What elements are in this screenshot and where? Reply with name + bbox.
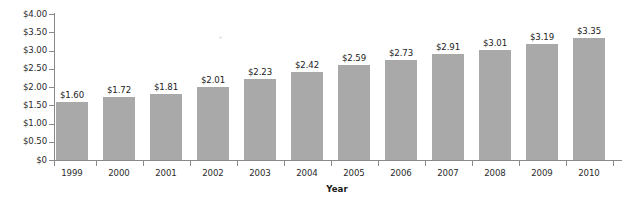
x-axis-category-label: 2001 [140, 168, 192, 178]
x-axis-category-label: 2010 [563, 168, 615, 178]
x-axis-tick [284, 161, 285, 166]
bar [291, 72, 323, 160]
bar-value-label: $3.01 [469, 38, 521, 48]
bar-value-label: $2.01 [187, 75, 239, 85]
x-axis-tick [519, 161, 520, 166]
x-axis-tick [143, 161, 144, 166]
bar [338, 65, 370, 160]
bar-value-label: $2.59 [328, 53, 380, 63]
x-axis-tick [190, 161, 191, 166]
x-axis-line [54, 160, 622, 161]
bar-value-label: $2.91 [422, 42, 474, 52]
bar-value-label: $2.23 [234, 67, 286, 77]
bar-chart: $0$0.50$1.00$1.50$2.00$2.50$3.00$3.50$4.… [0, 0, 635, 212]
bar [56, 102, 88, 160]
x-axis-title: Year [307, 184, 367, 194]
x-axis-tick [425, 161, 426, 166]
x-axis-category-label: 1999 [46, 168, 98, 178]
bar-value-label: $1.72 [93, 85, 145, 95]
x-axis-category-label: 2007 [422, 168, 474, 178]
x-axis-category-label: 2000 [93, 168, 145, 178]
x-axis-tick [54, 161, 55, 166]
x-axis-category-label: 2002 [187, 168, 239, 178]
bar [526, 44, 558, 160]
x-axis-tick [331, 161, 332, 166]
bar [479, 50, 511, 160]
bar-value-label: $1.81 [140, 82, 192, 92]
bar-value-label: $3.19 [516, 32, 568, 42]
bar-value-label: $1.60 [46, 90, 98, 100]
bar-value-label: $2.42 [281, 60, 333, 70]
bar [244, 79, 276, 160]
bar [150, 94, 182, 160]
x-axis-category-label: 2006 [375, 168, 427, 178]
bar [385, 60, 417, 160]
x-axis-category-label: 2008 [469, 168, 521, 178]
bar [103, 97, 135, 160]
x-axis-tick [566, 161, 567, 166]
x-axis-tick [378, 161, 379, 166]
x-axis-tick [613, 161, 614, 166]
bar [197, 87, 229, 160]
bar-value-label: $3.35 [563, 26, 615, 36]
x-axis-tick [96, 161, 97, 166]
bar [432, 54, 464, 160]
x-axis-category-label: 2003 [234, 168, 286, 178]
x-axis-category-label: 2005 [328, 168, 380, 178]
bar [573, 38, 605, 160]
x-axis-category-label: 2004 [281, 168, 333, 178]
bar-value-label: $2.73 [375, 48, 427, 58]
x-axis-tick [237, 161, 238, 166]
x-axis-category-label: 2009 [516, 168, 568, 178]
x-axis-tick [472, 161, 473, 166]
